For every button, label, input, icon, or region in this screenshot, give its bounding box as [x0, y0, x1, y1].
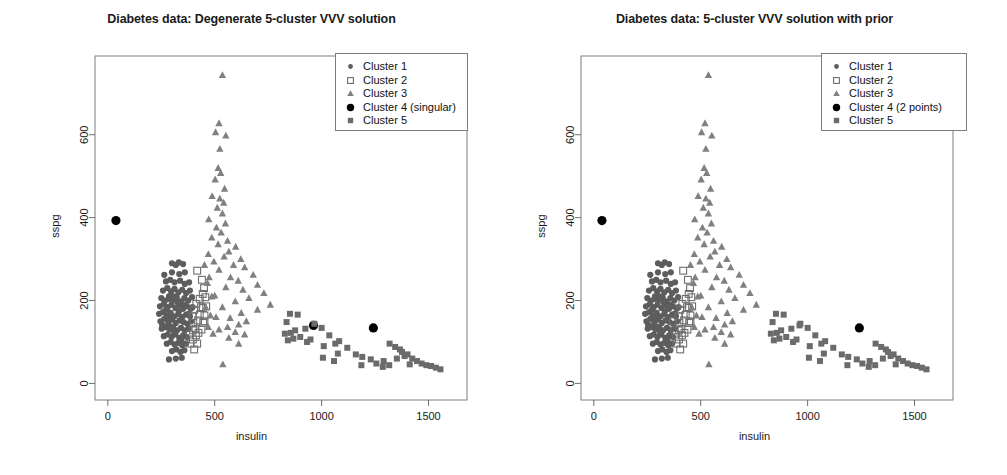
data-point — [162, 324, 168, 330]
data-point — [655, 348, 661, 354]
data-point — [693, 312, 700, 319]
legend-label: Cluster 1 — [363, 60, 407, 73]
data-point — [161, 333, 167, 339]
data-point — [662, 271, 668, 277]
data-point — [165, 331, 171, 337]
legend-label: Cluster 1 — [849, 60, 893, 73]
x-tick-label: 1500 — [902, 410, 926, 422]
data-point — [699, 224, 706, 231]
legend-label: Cluster 3 — [849, 87, 893, 100]
data-point — [663, 317, 669, 323]
data-point — [776, 336, 782, 342]
data-point — [437, 366, 443, 372]
data-point — [297, 334, 303, 340]
data-point — [687, 312, 694, 319]
data-point — [660, 299, 666, 305]
data-point — [710, 237, 717, 244]
data-point — [650, 341, 656, 347]
data-point — [174, 294, 180, 300]
data-point — [727, 263, 734, 270]
data-point — [807, 343, 813, 349]
data-point — [818, 341, 824, 347]
data-point — [179, 355, 185, 361]
data-point — [220, 253, 227, 260]
data-point — [702, 195, 709, 202]
data-point — [647, 301, 653, 307]
data-point — [650, 312, 656, 318]
data-point — [665, 287, 671, 293]
data-point — [676, 320, 683, 327]
data-point — [167, 277, 173, 283]
data-point — [239, 286, 246, 293]
data-point — [723, 255, 730, 262]
data-point — [172, 305, 178, 311]
data-point — [659, 355, 665, 361]
data-point — [647, 333, 653, 339]
data-point — [689, 303, 696, 310]
y-tick-label: 0 — [78, 380, 90, 386]
data-point — [205, 215, 212, 222]
data-point — [178, 337, 184, 343]
data-point — [217, 169, 224, 176]
large-filled-circle-icon — [829, 101, 844, 114]
data-point — [208, 292, 215, 299]
data-point — [433, 365, 439, 371]
data-point — [189, 304, 195, 310]
data-point — [736, 271, 743, 278]
data-point — [642, 311, 648, 317]
figure-two-panel-scatter: Diabetes data: Degenerate 5-cluster VVV … — [0, 0, 1007, 475]
data-point — [205, 273, 212, 280]
data-point — [182, 281, 188, 287]
data-point — [666, 332, 672, 338]
data-point — [225, 248, 232, 255]
data-point — [214, 204, 221, 211]
y-tick-label: 200 — [564, 291, 576, 309]
data-point — [669, 341, 675, 347]
data-point — [176, 308, 182, 314]
data-point — [180, 332, 186, 338]
data-point — [768, 331, 774, 337]
data-point — [654, 302, 660, 308]
y-tick-label: 400 — [564, 208, 576, 226]
data-point — [260, 289, 267, 296]
data-point — [682, 311, 689, 318]
data-point — [387, 341, 393, 347]
data-point — [295, 312, 301, 318]
data-point — [222, 283, 229, 290]
data-point — [235, 277, 242, 284]
legend-label: Cluster 5 — [363, 114, 407, 127]
data-point — [697, 292, 704, 299]
data-point — [675, 313, 682, 320]
data-point — [175, 311, 181, 317]
data-point — [770, 319, 776, 325]
data-point — [652, 293, 658, 299]
data-point — [238, 309, 245, 316]
data-point — [670, 334, 676, 340]
panel-right: Diabetes data: 5-cluster VVV solution wi… — [503, 0, 1006, 475]
x-tick-label: 1500 — [416, 410, 440, 422]
data-point — [176, 335, 182, 341]
data-point — [321, 343, 327, 349]
data-point — [649, 278, 655, 284]
data-point — [664, 337, 670, 343]
data-point — [694, 234, 701, 241]
data-point — [688, 294, 695, 301]
legend-item-2: Cluster 2 — [829, 74, 958, 88]
data-point — [652, 322, 658, 328]
data-point — [648, 324, 654, 330]
data-point — [222, 220, 229, 227]
data-point — [654, 334, 660, 340]
data-point — [254, 281, 261, 288]
data-point — [774, 330, 780, 336]
data-point — [174, 299, 180, 305]
data-point — [419, 361, 425, 367]
data-point — [399, 349, 405, 355]
data-point — [658, 331, 664, 337]
data-point — [179, 342, 185, 348]
data-point — [691, 250, 698, 257]
data-point — [668, 281, 674, 287]
data-point — [688, 303, 695, 310]
data-point — [710, 323, 717, 330]
data-point — [232, 328, 239, 335]
data-point — [201, 261, 208, 268]
